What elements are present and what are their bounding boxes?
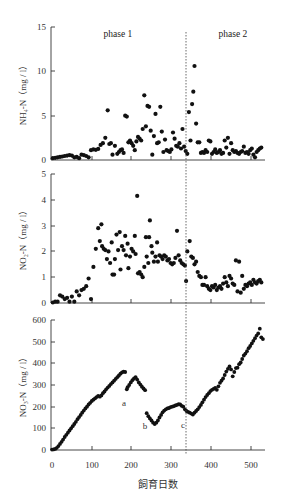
data-point bbox=[110, 240, 114, 244]
data-point bbox=[237, 260, 241, 264]
data-point bbox=[153, 255, 157, 259]
data-point bbox=[188, 138, 192, 142]
data-point bbox=[172, 261, 176, 265]
data-point bbox=[226, 136, 230, 140]
data-point bbox=[153, 112, 157, 116]
y-axis-label-no2: NO₂-N（mg / l） bbox=[18, 206, 28, 271]
data-point bbox=[106, 108, 110, 112]
data-point bbox=[135, 194, 139, 198]
data-point bbox=[122, 248, 126, 252]
data-point bbox=[145, 255, 149, 259]
y-axis-label-no3: NO₃-N（mg / l） bbox=[18, 353, 28, 418]
data-point bbox=[240, 357, 244, 361]
data-point bbox=[205, 150, 209, 154]
data-point bbox=[236, 366, 240, 370]
data-point bbox=[250, 146, 254, 150]
data-point bbox=[156, 260, 160, 264]
data-point bbox=[219, 287, 223, 291]
data-point bbox=[152, 134, 156, 138]
data-point bbox=[180, 127, 184, 131]
data-point bbox=[187, 110, 191, 114]
data-point bbox=[227, 152, 231, 156]
data-point bbox=[141, 275, 145, 279]
data-point bbox=[144, 124, 148, 128]
data-point bbox=[123, 370, 127, 374]
data-point bbox=[152, 260, 156, 264]
data-point bbox=[258, 327, 262, 331]
data-point bbox=[256, 332, 260, 336]
data-point bbox=[96, 226, 100, 230]
data-point bbox=[229, 276, 233, 280]
data-point bbox=[56, 300, 60, 304]
data-point bbox=[223, 373, 227, 377]
data-point bbox=[239, 361, 243, 365]
ytick-600: 600 bbox=[33, 315, 47, 325]
data-point bbox=[118, 230, 122, 234]
data-point bbox=[65, 296, 69, 300]
data-point bbox=[98, 239, 102, 243]
data-point bbox=[122, 151, 126, 155]
data-point bbox=[113, 257, 117, 261]
data-point bbox=[87, 155, 91, 159]
ytick-500: 500 bbox=[33, 337, 47, 347]
data-point bbox=[197, 140, 201, 144]
y-axis-label-nh4: NH₄-N（mg / l） bbox=[18, 61, 28, 126]
data-point bbox=[232, 370, 236, 374]
data-point bbox=[84, 284, 88, 288]
data-point bbox=[231, 374, 235, 378]
data-point bbox=[199, 275, 203, 279]
data-point bbox=[149, 244, 153, 248]
data-point bbox=[108, 261, 112, 265]
data-point bbox=[240, 274, 244, 278]
data-point bbox=[77, 156, 81, 160]
data-point bbox=[190, 102, 194, 106]
data-point bbox=[147, 235, 151, 239]
data-point bbox=[134, 139, 138, 143]
ytick-10: 10 bbox=[37, 66, 47, 76]
data-point bbox=[105, 257, 109, 261]
data-point bbox=[226, 284, 230, 288]
ytick-1: 1 bbox=[42, 272, 47, 282]
ytick-300: 300 bbox=[33, 380, 47, 390]
ytick-5: 5 bbox=[42, 169, 47, 179]
data-point bbox=[112, 273, 116, 277]
data-point bbox=[221, 377, 225, 381]
phase2-label: phase 2 bbox=[219, 29, 248, 39]
data-point bbox=[91, 265, 95, 269]
no2-points bbox=[51, 194, 264, 305]
ytick-15: 15 bbox=[37, 22, 47, 32]
data-point bbox=[125, 115, 129, 119]
data-point bbox=[232, 283, 236, 287]
data-point bbox=[120, 244, 124, 248]
data-point bbox=[148, 218, 152, 222]
data-point bbox=[109, 141, 113, 145]
ytick-0: 0 bbox=[42, 298, 47, 308]
no3-points bbox=[50, 327, 265, 452]
data-point bbox=[259, 146, 263, 150]
data-point bbox=[221, 151, 225, 155]
data-point bbox=[204, 275, 208, 279]
data-point bbox=[182, 145, 186, 149]
data-point bbox=[229, 368, 233, 372]
data-point bbox=[167, 257, 171, 261]
panel-no3: 600 500 400 300 200 100 0 0 100 200 300 … bbox=[18, 315, 265, 490]
ytick-5: 5 bbox=[42, 111, 47, 121]
ytick-2: 2 bbox=[42, 246, 47, 256]
data-point bbox=[224, 280, 228, 284]
data-point bbox=[133, 234, 137, 238]
data-point bbox=[217, 384, 221, 388]
xtick-0: 0 bbox=[50, 460, 55, 470]
ytick-4: 4 bbox=[42, 195, 47, 205]
data-point bbox=[223, 275, 227, 279]
data-point bbox=[188, 239, 192, 243]
data-point bbox=[191, 90, 195, 94]
data-point bbox=[118, 267, 122, 271]
data-point bbox=[229, 141, 233, 145]
data-point bbox=[242, 145, 246, 149]
data-point bbox=[163, 138, 167, 142]
data-point bbox=[96, 147, 100, 151]
data-point bbox=[196, 270, 200, 274]
panel-no2: 5 4 3 2 1 0 NO₂-N（mg / l） bbox=[18, 169, 265, 308]
xtick-200: 200 bbox=[124, 460, 138, 470]
xtick-500: 500 bbox=[244, 460, 258, 470]
